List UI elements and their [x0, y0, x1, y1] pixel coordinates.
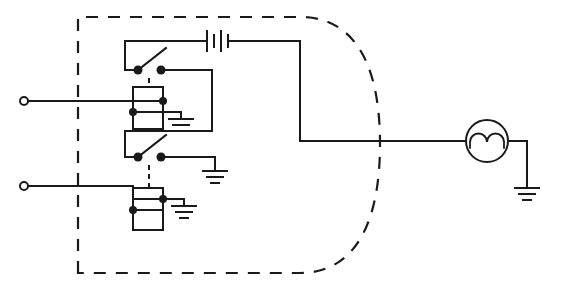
- circuit-diagram-canvas: [0, 0, 567, 285]
- net-battery-to-upper-switch: [125, 41, 138, 70]
- schematic-svg: [0, 0, 567, 285]
- horn: [466, 120, 527, 188]
- net-battery-to-horn: [300, 41, 466, 141]
- input-terminal-lower[interactable]: [20, 182, 133, 190]
- input-terminal-upper[interactable]: [20, 97, 133, 105]
- relay-upper-coil: [133, 87, 163, 129]
- dashed-enclosure: [78, 17, 380, 273]
- ground-horn: [515, 188, 539, 200]
- relay-lower[interactable]: [125, 131, 215, 230]
- battery: [125, 31, 300, 51]
- ground-upper-coil: [169, 119, 193, 131]
- ground-lower-switch: [203, 171, 227, 183]
- ground-lower-coil: [172, 206, 196, 218]
